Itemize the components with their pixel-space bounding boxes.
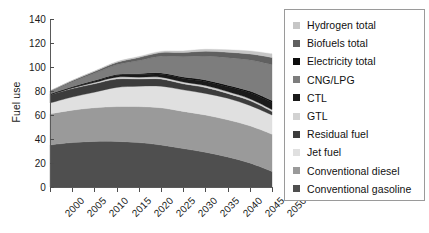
x-tick-mark	[50, 188, 51, 192]
x-tick-mark	[72, 188, 73, 192]
legend-swatch-icon	[293, 167, 300, 174]
chart-legend: Hydrogen totalBiofuels totalElectricity …	[284, 9, 425, 201]
chart-figure: Fuel use 020406080100120140 200020052010…	[0, 0, 429, 233]
y-tick-mark	[50, 43, 54, 44]
x-tick-mark	[161, 188, 162, 192]
legend-swatch-icon	[293, 149, 300, 156]
y-tick-mark	[50, 19, 54, 20]
legend-swatch-icon	[293, 22, 300, 29]
legend-item-label: Jet fuel	[307, 146, 341, 158]
legend-item-label: Hydrogen total	[307, 19, 376, 31]
legend-item-label: Biofuels total	[307, 37, 368, 49]
legend-item-label: Electricity total	[307, 55, 376, 67]
legend-item[interactable]: Residual fuel	[293, 125, 424, 143]
legend-item-label: Conventional diesel	[307, 165, 400, 177]
legend-swatch-icon	[293, 76, 300, 83]
legend-item[interactable]: Hydrogen total	[293, 16, 424, 34]
legend-swatch-icon	[293, 40, 300, 47]
legend-swatch-icon	[293, 131, 300, 138]
y-tick-mark	[50, 139, 54, 140]
y-tick-mark	[50, 91, 54, 92]
legend-item-label: Conventional gasoline	[307, 183, 411, 195]
legend-item[interactable]: Electricity total	[293, 52, 424, 70]
legend-item[interactable]: Biofuels total	[293, 34, 424, 52]
legend-item[interactable]: Jet fuel	[293, 143, 424, 161]
legend-item[interactable]: CNG/LPG	[293, 71, 424, 89]
legend-swatch-icon	[293, 113, 300, 120]
plot-area: Fuel use 020406080100120140 200020052010…	[0, 0, 280, 233]
y-tick-mark	[50, 115, 54, 116]
legend-item-label: GTL	[307, 110, 328, 122]
legend-swatch-icon	[293, 185, 300, 192]
x-tick-mark	[183, 188, 184, 192]
legend-item-label: CTL	[307, 92, 327, 104]
y-tick-mark	[50, 163, 54, 164]
x-tick-mark	[272, 188, 273, 192]
x-tick-mark	[139, 188, 140, 192]
legend-swatch-icon	[293, 94, 300, 101]
x-tick-mark	[228, 188, 229, 192]
y-tick-mark	[50, 67, 54, 68]
legend-item[interactable]: CTL	[293, 89, 424, 107]
x-tick-mark	[117, 188, 118, 192]
x-tick-mark	[94, 188, 95, 192]
legend-swatch-icon	[293, 58, 300, 65]
x-tick-mark	[205, 188, 206, 192]
legend-item-label: CNG/LPG	[307, 74, 355, 86]
legend-item[interactable]: Conventional gasoline	[293, 180, 424, 198]
legend-item-label: Residual fuel	[307, 128, 368, 140]
legend-item[interactable]: GTL	[293, 107, 424, 125]
x-tick-mark	[250, 188, 251, 192]
legend-item[interactable]: Conventional diesel	[293, 162, 424, 180]
